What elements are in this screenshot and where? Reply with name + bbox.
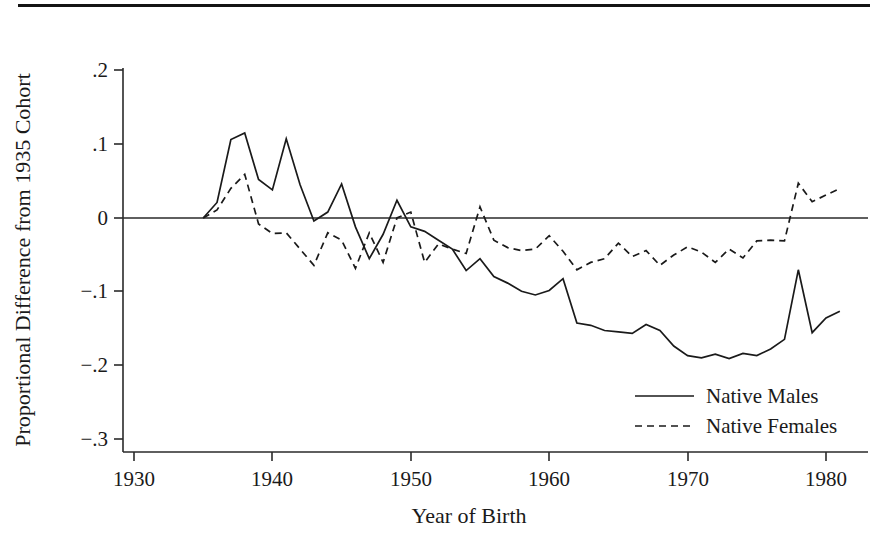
y-tick-label-2: 0 bbox=[98, 206, 109, 230]
series-line-native-females bbox=[203, 174, 840, 269]
legend: Native Males Native Females bbox=[635, 384, 837, 438]
y-tick-label-1: .1 bbox=[92, 132, 108, 156]
x-tick-label-5: 1980 bbox=[805, 467, 847, 491]
y-tick-label-5: −.3 bbox=[80, 427, 108, 451]
y-axis-ticks bbox=[114, 70, 123, 439]
y-tick-label-4: −.2 bbox=[80, 353, 108, 377]
line-chart: .2 .1 0 −.1 −.2 −.3 1930 1940 1950 1960 … bbox=[0, 0, 890, 559]
x-tick-label-1: 1940 bbox=[251, 467, 293, 491]
series-line-native-males bbox=[203, 133, 840, 359]
legend-label-native-males: Native Males bbox=[706, 384, 819, 408]
x-axis-title: Year of Birth bbox=[411, 503, 526, 528]
y-tick-label-0: .2 bbox=[92, 58, 108, 82]
x-tick-label-2: 1950 bbox=[390, 467, 432, 491]
legend-label-native-females: Native Females bbox=[706, 414, 837, 438]
y-axis-title: Proportional Difference from 1935 Cohort bbox=[10, 73, 35, 447]
x-tick-label-0: 1930 bbox=[113, 467, 155, 491]
figure-container: .2 .1 0 −.1 −.2 −.3 1930 1940 1950 1960 … bbox=[0, 0, 890, 559]
y-tick-label-3: −.1 bbox=[80, 279, 108, 303]
x-tick-label-4: 1970 bbox=[667, 467, 709, 491]
x-axis-ticks bbox=[134, 452, 826, 461]
x-tick-label-3: 1960 bbox=[528, 467, 570, 491]
